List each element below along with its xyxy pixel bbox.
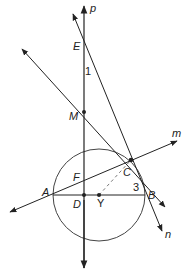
point-d bbox=[82, 193, 86, 197]
label-p: p bbox=[89, 2, 96, 14]
label-f: F bbox=[73, 171, 81, 183]
label-n: n bbox=[165, 228, 171, 240]
label-d: D bbox=[73, 198, 81, 210]
geometry-figure: p m n E 1 M F A D Y C 3 B bbox=[0, 0, 184, 272]
label-e: E bbox=[73, 40, 81, 52]
line-mc bbox=[22, 49, 165, 207]
label-m-point: M bbox=[69, 110, 79, 122]
label-a: A bbox=[41, 186, 49, 198]
label-angle-1: 1 bbox=[85, 65, 91, 77]
label-b: B bbox=[148, 189, 155, 201]
label-angle-3: 3 bbox=[133, 181, 139, 193]
point-c bbox=[129, 158, 134, 163]
label-c: C bbox=[123, 166, 131, 178]
label-y: Y bbox=[97, 197, 105, 209]
line-m bbox=[10, 141, 177, 212]
label-m: m bbox=[172, 127, 181, 139]
point-m bbox=[82, 110, 86, 114]
